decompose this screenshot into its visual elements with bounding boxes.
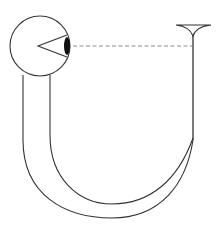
eyeball-icon	[10, 16, 70, 76]
u-tube-outer-wall	[23, 75, 193, 218]
diagram-canvas: Eye looking through a U-shaped tube	[0, 0, 220, 228]
eye-tube-diagram	[0, 0, 220, 228]
lens-icon	[64, 37, 70, 55]
u-tube-inner-wall	[50, 75, 193, 204]
funnel-icon	[176, 25, 211, 36]
